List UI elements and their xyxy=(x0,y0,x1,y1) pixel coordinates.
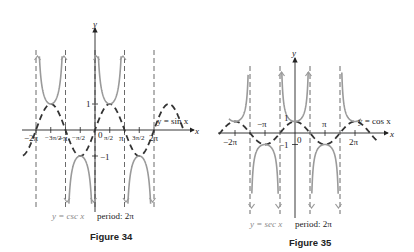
y-tick-1: 1 xyxy=(284,113,289,123)
figure-35-graph xyxy=(218,58,388,218)
x-axis-label: x xyxy=(389,129,394,139)
y-tick-1: 1 xyxy=(86,99,91,109)
period-caption: period: 2π xyxy=(295,219,332,229)
csc-function-caption: y = csc x xyxy=(51,211,84,221)
figure-34-title: Figure 34 xyxy=(90,231,133,242)
x-tick-negpi: −π xyxy=(257,119,267,129)
y-axis-label: y xyxy=(92,19,97,29)
reciprocal-branch xyxy=(312,145,338,194)
y-axis-label: y xyxy=(291,48,296,58)
x-tick-pi: π xyxy=(119,133,124,143)
y-tick-neg1: −1 xyxy=(279,140,289,150)
reciprocal-branch xyxy=(69,156,92,204)
arrow-icon xyxy=(309,204,315,208)
cos-curve-label: y = cos x xyxy=(358,116,391,126)
reciprocal-branch xyxy=(39,56,62,104)
reciprocal-branch xyxy=(98,56,121,104)
x-tick-zero: 0 xyxy=(297,135,302,145)
figure-35-title: Figure 35 xyxy=(289,237,332,248)
x-tick-neg2pi: −2π xyxy=(24,133,39,143)
reciprocal-branch-partial xyxy=(229,75,248,122)
arrow-icon xyxy=(335,204,341,208)
figure-34-labels: y x y = sin x 1 −1 −2π −3π/2 −π −π/2 0 π… xyxy=(24,19,199,242)
x-axis-label: x xyxy=(194,126,199,136)
arrow-icon xyxy=(249,204,255,208)
period-caption: period: 2π xyxy=(97,211,134,221)
x-tick-negpi2: −π/2 xyxy=(72,134,85,142)
x-tick-negpi: −π xyxy=(58,133,68,143)
reciprocal-branch-partial xyxy=(342,72,361,121)
x-tick-pi: π xyxy=(322,119,327,129)
x-tick-2pi: 2π xyxy=(349,137,359,147)
x-tick-2pi: 2π xyxy=(149,133,159,143)
figures-canvas: y x y = sin x 1 −1 −2π −3π/2 −π −π/2 0 π… xyxy=(0,0,414,252)
sec-function-caption: y = sec x xyxy=(249,219,282,229)
reciprocal-branch xyxy=(252,145,278,194)
x-tick-3pi2: 3π/2 xyxy=(132,134,145,142)
x-tick-pi2: π/2 xyxy=(104,134,113,142)
reciprocal-branch xyxy=(128,156,151,204)
sin-curve-label: y = sin x xyxy=(157,116,189,126)
x-tick-neg2pi: −2π xyxy=(223,137,238,147)
x-tick-zero: 0 xyxy=(98,130,103,140)
arrow-icon xyxy=(275,204,281,208)
y-tick-neg1: −1 xyxy=(100,152,110,162)
